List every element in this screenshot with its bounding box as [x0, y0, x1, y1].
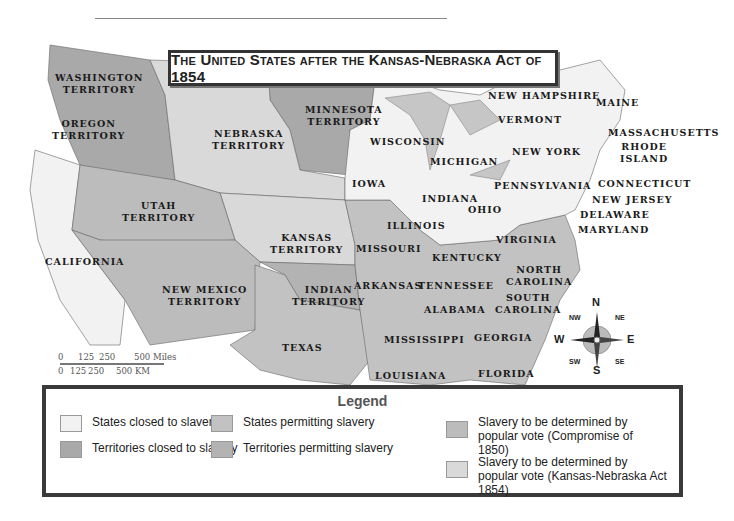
label-new-york: NEW YORK: [512, 146, 581, 158]
swatch-popular-vote-1850: [446, 421, 468, 438]
swatch-states-closed: [60, 415, 82, 432]
label-delaware: DELAWARE: [580, 209, 650, 221]
label-rhode-island: RHODE ISLAND: [620, 141, 668, 165]
swatch-territories-closed: [60, 441, 82, 458]
label-kansas: KANSAS TERRITORY: [270, 232, 343, 256]
label-minnesota: MINNESOTA TERRITORY: [305, 104, 383, 128]
label-ohio: OHIO: [468, 204, 502, 216]
label-new-hampshire: NEW HAMPSHIRE: [488, 90, 600, 102]
legend-title: Legend: [46, 393, 679, 409]
legend-item-popular-vote-1850: Slavery to be determined by popular vote…: [446, 415, 666, 457]
label-new-mexico: NEW MEXICO TERRITORY: [162, 284, 247, 308]
label-kentucky: KENTUCKY: [432, 252, 502, 264]
label-arkansas: ARKANSAS: [354, 280, 422, 292]
legend-item-territories-permitting: Territories permitting slavery: [211, 441, 393, 458]
swatch-states-permitting: [211, 415, 233, 432]
legend: Legend States closed to slavery Territor…: [42, 385, 683, 497]
label-florida: FLORIDA: [478, 368, 535, 380]
legend-item-popular-vote-1854: Slavery to be determined by popular vote…: [446, 455, 676, 497]
label-oregon: OREGON TERRITORY: [52, 118, 125, 142]
label-massachusetts: MASSACHUSETTS: [608, 127, 719, 139]
label-utah: UTAH TERRITORY: [122, 200, 195, 224]
label-louisiana: LOUISIANA: [375, 370, 446, 382]
label-vermont: VERMONT: [498, 114, 562, 126]
label-california: CALIFORNIA: [45, 256, 124, 268]
label-pennsylvania: PENNSYLVANIA: [494, 180, 591, 192]
swatch-popular-vote-1854: [446, 461, 468, 478]
label-texas: TEXAS: [282, 342, 323, 354]
map-title: The United States after the Kansas-Nebra…: [171, 51, 555, 85]
label-south-carolina: SOUTH CAROLINA: [495, 292, 561, 316]
label-new-jersey: NEW JERSEY: [592, 194, 672, 206]
label-tennessee: TENNESSEE: [418, 280, 494, 292]
label-north-carolina: NORTH CAROLINA: [506, 264, 572, 288]
label-virginia: VIRGINIA: [496, 234, 557, 246]
compass-rose: N S W E NW NE SW SE: [560, 302, 634, 376]
label-maryland: MARYLAND: [578, 224, 649, 236]
legend-item-states-closed: States closed to slavery: [60, 415, 219, 432]
scale-bar: 0 125 250 500 Miles 0 125 250 500 KM: [58, 352, 188, 376]
label-michigan: MICHIGAN: [430, 156, 498, 168]
label-mississippi: MISSISSIPPI: [384, 334, 465, 346]
label-alabama: ALABAMA: [424, 304, 486, 316]
label-connecticut: CONNECTICUT: [598, 178, 691, 190]
scale-line: [60, 363, 164, 365]
label-iowa: IOWA: [352, 178, 386, 190]
label-illinois: ILLINOIS: [387, 220, 446, 232]
map-title-box: The United States after the Kansas-Nebra…: [168, 50, 558, 86]
legend-item-states-permitting: States permitting slavery: [211, 415, 374, 432]
label-nebraska: NEBRASKA TERRITORY: [212, 128, 285, 152]
label-maine: MAINE: [596, 97, 639, 109]
label-georgia: GEORGIA: [474, 332, 532, 344]
swatch-territories-permitting: [211, 441, 233, 458]
label-washington: WASHINGTON TERRITORY: [55, 72, 144, 96]
label-missouri: MISSOURI: [356, 243, 421, 255]
label-wisconsin: WISCONSIN: [370, 136, 445, 148]
